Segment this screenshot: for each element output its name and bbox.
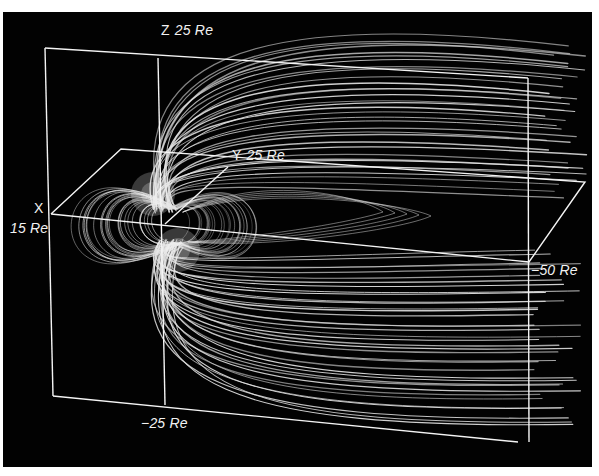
box-right-edge: [528, 78, 529, 442]
magnetosphere-figure: Z25 Re Y25 Re X 15 Re −50 Re −25 Re: [3, 12, 592, 467]
reference-box: [45, 48, 585, 442]
field-line-plot: [3, 12, 592, 467]
x-axis-letter: X: [34, 200, 44, 216]
z-axis-label: Z25 Re: [161, 22, 213, 38]
z-bottom-label: −25 Re: [141, 415, 188, 431]
box-bottom-edge: [53, 396, 518, 442]
field-lines: [71, 34, 586, 425]
box-center-vertical: [158, 58, 165, 405]
x-axis-value: 15 Re: [10, 220, 48, 236]
box-back-top-edge: [45, 48, 528, 78]
y-axis-label: Y25 Re: [232, 147, 285, 163]
x-far-label: −50 Re: [531, 262, 578, 278]
